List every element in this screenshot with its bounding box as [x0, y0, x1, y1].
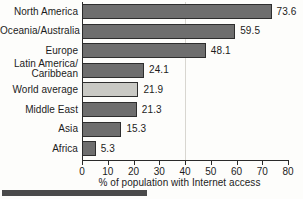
- x-tick-mark: [159, 161, 160, 165]
- bar-middle-east: [82, 102, 137, 117]
- bar-world-average: [82, 82, 138, 97]
- y-axis-line: [82, 2, 83, 161]
- bar-row: 21.3: [82, 102, 288, 117]
- bar-row: 24.1: [82, 63, 288, 78]
- bar-value-label: 21.9: [143, 85, 163, 95]
- x-tick-label: 10: [102, 166, 113, 177]
- x-tick-mark: [211, 161, 212, 165]
- x-tick-label: 70: [257, 166, 268, 177]
- x-tick-mark: [185, 161, 186, 165]
- category-label: Asia: [0, 124, 78, 135]
- bar-africa: [82, 141, 96, 156]
- x-tick-mark: [288, 161, 289, 165]
- x-axis-title: % of population with Internet access: [0, 177, 303, 189]
- x-tick-label: 60: [231, 166, 242, 177]
- x-tick-mark: [108, 161, 109, 165]
- bar-row: 21.9: [82, 82, 288, 97]
- bar-north-america: [82, 4, 272, 19]
- x-tick-mark: [262, 161, 263, 165]
- bar-asia: [82, 122, 121, 137]
- category-label: Europe: [0, 46, 78, 57]
- bar-value-label: 24.1: [149, 65, 169, 75]
- x-tick-mark: [237, 161, 238, 165]
- x-tick-label: 30: [154, 166, 165, 177]
- bar-oceania-australia: [82, 24, 235, 39]
- x-tick-label: 20: [128, 166, 139, 177]
- caption-rule: [2, 190, 147, 196]
- bar-value-label: 73.6: [277, 7, 297, 17]
- category-label: Oceania/Australia: [0, 26, 78, 37]
- bar-value-label: 5.3: [101, 144, 115, 154]
- x-tick-label: 50: [205, 166, 216, 177]
- x-tick-mark: [134, 161, 135, 165]
- category-label: World average: [0, 85, 78, 96]
- x-axis-ticks: 01020304050607080: [82, 161, 288, 177]
- bar-row: 73.6: [82, 4, 288, 19]
- x-tick-label: 80: [282, 166, 293, 177]
- plot-area: 73.659.548.124.121.921.315.35.3: [82, 2, 288, 160]
- bar-value-label: 59.5: [240, 26, 260, 36]
- bar-chart-figure: North AmericaOceania/AustraliaEuropeLati…: [0, 0, 303, 199]
- bar-value-label: 21.3: [142, 105, 162, 115]
- x-tick-label: 40: [179, 166, 190, 177]
- bar-value-label: 48.1: [211, 46, 231, 56]
- bar-latin-america: [82, 63, 144, 78]
- x-tick-label: 0: [79, 166, 85, 177]
- category-label: North America: [0, 7, 78, 18]
- bar-row: 15.3: [82, 122, 288, 137]
- bar-europe: [82, 43, 206, 58]
- category-label: Africa: [0, 144, 78, 155]
- category-label: Latin America/Caribbean: [0, 59, 78, 80]
- bar-value-label: 15.3: [126, 124, 146, 134]
- category-axis-labels: North AmericaOceania/AustraliaEuropeLati…: [0, 2, 78, 160]
- category-label: Middle East: [0, 105, 78, 116]
- bar-row: 59.5: [82, 24, 288, 39]
- x-tick-mark: [82, 161, 83, 165]
- bar-row: 5.3: [82, 141, 288, 156]
- bar-row: 48.1: [82, 43, 288, 58]
